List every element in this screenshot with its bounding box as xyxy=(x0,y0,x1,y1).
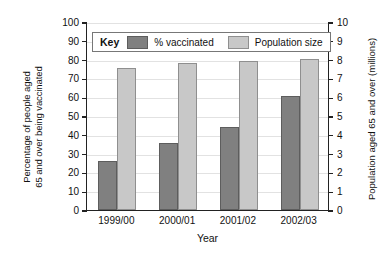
bar-population xyxy=(300,59,319,210)
y-axis-right-tick-label: 7 xyxy=(337,74,357,84)
y-axis-right-tick xyxy=(328,154,333,155)
bar-population xyxy=(117,68,136,210)
y-axis-left-tick xyxy=(82,98,87,99)
y-axis-left-tick xyxy=(82,79,87,80)
bar-vaccinated xyxy=(281,96,300,210)
x-axis-tick-label: 2000/01 xyxy=(159,215,195,227)
y-axis-right-tick-label: 9 xyxy=(337,37,357,47)
y-axis-left-tick-label: 0 xyxy=(55,206,79,216)
y-axis-right-tick-label: 10 xyxy=(337,18,357,28)
y-axis-left-title: Percentage of people aged 65 and over be… xyxy=(21,32,51,222)
y-axis-right-tick xyxy=(328,135,333,136)
x-axis-title: Year xyxy=(86,232,329,244)
legend-label-vaccinated: % vaccinated xyxy=(154,37,213,48)
y-axis-right-tick-label: 1 xyxy=(337,187,357,197)
y-axis-left-tick-label: 100 xyxy=(55,18,79,28)
y-axis-right-tick xyxy=(328,173,333,174)
y-axis-left-tick xyxy=(82,135,87,136)
y-axis-left-tick-label: 60 xyxy=(55,93,79,103)
y-axis-right-tick xyxy=(328,60,333,61)
y-axis-left-tick-label: 40 xyxy=(55,131,79,141)
legend-swatch-population xyxy=(228,36,249,49)
y-axis-left-title-line1: Percentage of people aged xyxy=(21,32,33,222)
y-axis-right-tick-label: 3 xyxy=(337,150,357,160)
y-axis-left-tick-label: 70 xyxy=(55,74,79,84)
y-axis-right-tick xyxy=(328,98,333,99)
y-axis-right-tick xyxy=(328,210,333,211)
y-axis-left-tick xyxy=(82,154,87,155)
y-axis-left-tick xyxy=(82,192,87,193)
y-axis-left-tick-label: 20 xyxy=(55,168,79,178)
legend-label-population: Population size xyxy=(255,37,323,48)
y-axis-left-tick-label: 50 xyxy=(55,112,79,122)
x-axis-tick-label: 1999/00 xyxy=(98,215,134,227)
y-axis-right-tick-label: 8 xyxy=(337,56,357,66)
y-axis-right-tick xyxy=(328,192,333,193)
y-axis-right-tick xyxy=(328,79,333,80)
y-axis-left-tick-label: 30 xyxy=(55,150,79,160)
x-axis-tick-labels: 1999/002000/012001/022002/03 xyxy=(86,215,329,229)
y-axis-right-title: Population aged 65 and over (millions) xyxy=(365,19,379,219)
y-axis-right-tick-label: 0 xyxy=(337,206,357,216)
y-axis-left-tick-label: 80 xyxy=(55,56,79,66)
y-axis-right-tick-label: 6 xyxy=(337,93,357,103)
y-axis-right-tick-label: 2 xyxy=(337,168,357,178)
y-axis-left-title-line2: 65 and over being vaccinated xyxy=(33,32,45,222)
bar-population xyxy=(239,61,258,210)
legend-swatch-vaccinated xyxy=(127,36,148,49)
y-axis-left-tick xyxy=(82,116,87,117)
bar-vaccinated xyxy=(159,143,178,210)
bar-chart: Percentage of people aged 65 and over be… xyxy=(0,0,382,259)
y-axis-right-tick xyxy=(328,116,333,117)
x-axis-tick-label: 2002/03 xyxy=(281,215,317,227)
y-axis-left-tick xyxy=(82,210,87,211)
bar-population xyxy=(178,63,197,210)
x-axis-tick-label: 2001/02 xyxy=(220,215,256,227)
y-axis-left-tick xyxy=(82,173,87,174)
y-axis-right-tick xyxy=(328,22,333,23)
bar-vaccinated xyxy=(220,127,239,210)
legend-key-word: Key xyxy=(100,36,119,48)
chart-legend: Key % vaccinated Population size xyxy=(92,32,331,52)
y-axis-left-tick xyxy=(82,22,87,23)
y-axis-left-tick-label: 10 xyxy=(55,187,79,197)
y-axis-left-tick xyxy=(82,60,87,61)
y-axis-right-tick-label: 4 xyxy=(337,131,357,141)
y-axis-right-tick-label: 5 xyxy=(337,112,357,122)
y-axis-left-tick-label: 90 xyxy=(55,37,79,47)
bar-vaccinated xyxy=(98,161,117,210)
y-axis-left-tick xyxy=(82,41,87,42)
